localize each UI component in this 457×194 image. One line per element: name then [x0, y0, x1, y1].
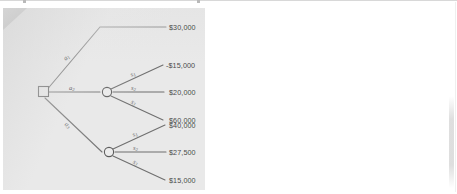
scan-top-tick-left — [23, 0, 26, 3]
payoff-label-c1-s2: $20,000 — [169, 89, 196, 96]
scan-top-rule — [0, 0, 457, 1]
payoff-label-c2-s3: $15,000 — [169, 177, 196, 184]
payoff-label-a1: $30,000 — [169, 24, 196, 31]
branch-a3-line — [45, 98, 102, 152]
branch-label-c1-s2: s2 — [131, 85, 136, 93]
decision-tree-graphic — [3, 8, 205, 190]
scan-top-tick-right — [197, 0, 200, 3]
payoff-label-c2-s1: $40,000 — [169, 122, 196, 129]
chance-node-circle-lower — [104, 147, 113, 156]
decision-node-square — [39, 87, 49, 97]
branch-label-a2: a2 — [69, 85, 75, 93]
branch-label-c2-s2: s2 — [133, 145, 138, 153]
branch-a1-line — [45, 27, 166, 92]
scan-right-rule — [455, 2, 456, 192]
figure-root: a1 a2 a3 s1 s2 s3 s1 s2 s3 $30,000 -$15,… — [0, 0, 457, 194]
payoff-label-c2-s2: $27,500 — [169, 149, 196, 156]
decision-tree-panel: a1 a2 a3 s1 s2 s3 s1 s2 s3 $30,000 -$15,… — [3, 8, 205, 190]
scan-right-edge-bleed — [449, 96, 454, 188]
payoff-label-c1-s1: -$15,000 — [166, 62, 195, 69]
chance-node-circle-upper — [102, 87, 111, 96]
